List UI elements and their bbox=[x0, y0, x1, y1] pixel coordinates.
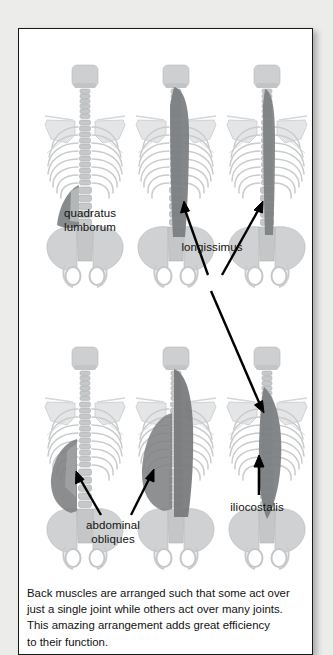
figure-bottom-right bbox=[227, 347, 307, 569]
figure-caption: Back muscles are arranged such that some… bbox=[27, 585, 305, 650]
label-quadratus-lumborum: quadratus lumborum bbox=[31, 207, 149, 234]
muscle-obliques-lateral bbox=[142, 413, 172, 511]
skeleton-illustration-stage: quadratus lumborum longissimus abdominal… bbox=[19, 29, 313, 574]
label-iliocostalis: iliocostalis bbox=[204, 501, 310, 515]
back-muscles-figure-panel: quadratus lumborum longissimus abdominal… bbox=[18, 28, 313, 655]
label-abdominal-obliques: abdominal obliques bbox=[47, 519, 179, 546]
label-longissimus: longissimus bbox=[157, 241, 267, 255]
anatomy-illustration bbox=[19, 29, 313, 574]
caption-line-3: This amazing arrangement adds great effi… bbox=[27, 617, 305, 633]
caption-line-2: just a single joint while others act ove… bbox=[27, 601, 305, 617]
muscle-obliques-medial bbox=[174, 369, 193, 517]
figure-top-left bbox=[45, 65, 125, 287]
caption-line-1: Back muscles are arranged such that some… bbox=[27, 585, 305, 601]
muscle-longissimus-narrow bbox=[263, 89, 275, 235]
caption-line-4: to their function. bbox=[27, 634, 305, 650]
